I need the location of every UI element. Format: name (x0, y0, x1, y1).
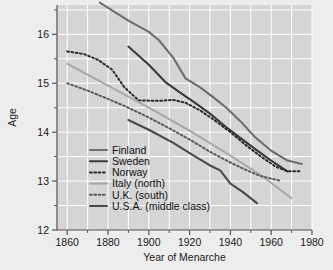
y-tick-label: 15 (37, 77, 49, 89)
legend-label-norway: Norway (112, 166, 148, 178)
plot-area-background (57, 5, 312, 230)
y-tick-label: 12 (37, 224, 49, 236)
legend-label-italy-north: Italy (north) (112, 177, 165, 189)
x-tick-label: 1980 (300, 236, 324, 248)
y-tick-label: 16 (37, 28, 49, 40)
menarche-age-line-chart: 12131415161860188019001920194019601980 Y… (0, 0, 333, 270)
x-tick-label: 1900 (137, 236, 161, 248)
x-tick-label: 1960 (260, 236, 284, 248)
y-tick-label: 13 (37, 175, 49, 187)
legend-label-u-s-a-middle-class: U.S.A. (middle class) (112, 200, 210, 212)
x-axis-title: Year of Menarche (143, 251, 226, 263)
legend-label-u-k-south: U.K. (south) (112, 189, 168, 201)
x-tick-label: 1920 (178, 236, 202, 248)
y-tick-label: 14 (37, 126, 49, 138)
legend-label-finland: Finland (112, 144, 147, 156)
x-tick-label: 1880 (96, 236, 120, 248)
legend-label-sweden: Sweden (112, 155, 150, 167)
x-tick-label: 1940 (219, 236, 243, 248)
x-tick-label: 1860 (56, 236, 80, 248)
y-axis-title: Age (6, 108, 18, 127)
chart-container: 12131415161860188019001920194019601980 Y… (0, 0, 333, 270)
